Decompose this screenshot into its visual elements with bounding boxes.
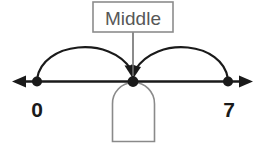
arrow-left-icon	[12, 76, 26, 88]
callout-label: Middle	[105, 8, 161, 29]
arc-right-path	[135, 47, 228, 79]
callout-box[interactable]: Middle	[93, 2, 173, 32]
point-middle-dot[interactable]	[128, 76, 139, 87]
dome-outline	[112, 82, 154, 141]
arrow-right-icon	[239, 76, 253, 88]
arc-left-path	[37, 47, 132, 79]
arc-from-zero-to-middle	[37, 47, 135, 79]
number-line-midpoint-diagram: 0 7 Middle	[0, 0, 264, 149]
diagram-canvas: 0 7 Middle	[0, 0, 264, 149]
point-zero-dot[interactable]	[32, 77, 42, 87]
tick-label-seven: 7	[223, 98, 235, 121]
arc-from-seven-to-middle	[131, 47, 228, 79]
dome-shape	[112, 82, 154, 141]
tick-label-zero: 0	[31, 98, 43, 121]
point-seven-dot[interactable]	[223, 77, 233, 87]
